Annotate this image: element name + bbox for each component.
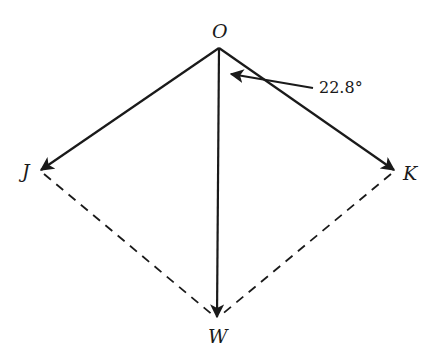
- angle-label: 22.8°: [319, 78, 363, 97]
- dashed-line-k-w: [220, 174, 391, 316]
- force-diagram: O J K W 22.8°: [0, 0, 439, 363]
- vector-o-j: [41, 48, 219, 170]
- point-label-j: J: [18, 160, 31, 182]
- vector-o-k: [219, 48, 394, 170]
- point-label-k: K: [402, 162, 419, 184]
- vector-o-w: [217, 48, 219, 317]
- dashed-line-j-w: [44, 174, 214, 316]
- point-label-o: O: [212, 20, 228, 42]
- point-label-w: W: [208, 325, 229, 347]
